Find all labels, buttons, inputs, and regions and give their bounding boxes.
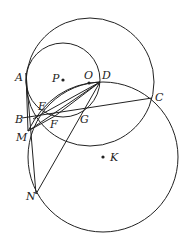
label-D: D	[101, 69, 111, 82]
segment-N-D	[36, 82, 100, 194]
label-B: B	[14, 113, 23, 126]
diagram-canvas: APODCEBFGMKN	[0, 0, 189, 248]
label-P: P	[51, 72, 60, 85]
point-P	[61, 78, 64, 81]
label-E: E	[37, 100, 46, 113]
segment-F-D	[55, 82, 100, 116]
point-K	[101, 155, 104, 158]
label-F: F	[49, 118, 58, 131]
geometry-diagram: APODCEBFGMKN	[0, 0, 189, 248]
label-G: G	[80, 113, 89, 126]
label-N: N	[25, 190, 36, 203]
label-A: A	[14, 71, 23, 84]
label-O: O	[84, 69, 93, 82]
segment-A-N	[26, 73, 36, 194]
label-C: C	[155, 91, 164, 104]
label-M: M	[15, 131, 28, 144]
label-K: K	[109, 151, 119, 164]
